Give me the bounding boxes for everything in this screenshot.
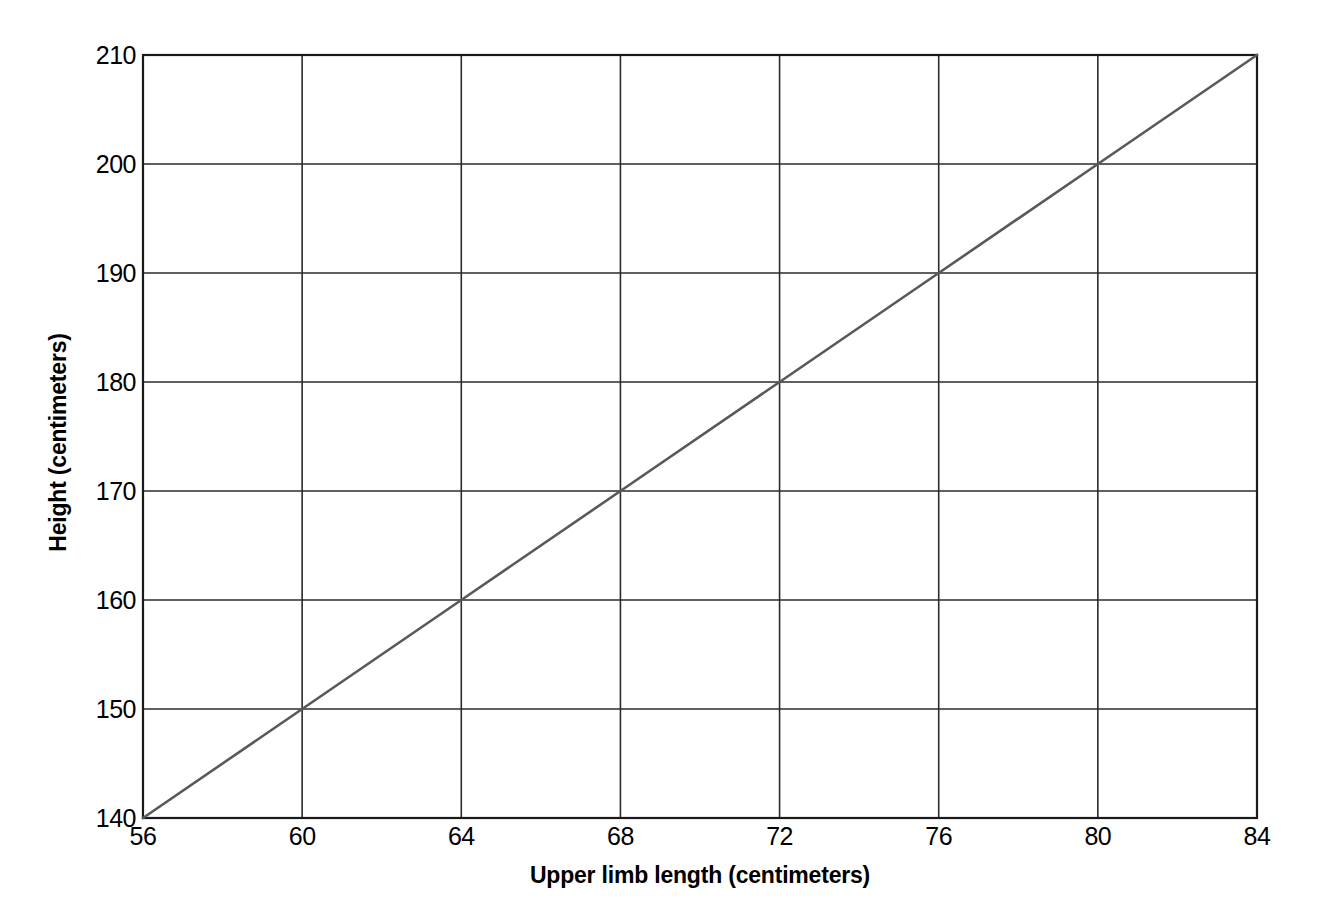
x-axis-title: Upper limb length (centimeters) [143,862,1257,889]
plot-area [0,0,1317,923]
data-series-line [143,55,1257,818]
chart-figure: Height (centimeters) 1401501601701801902… [0,0,1317,923]
